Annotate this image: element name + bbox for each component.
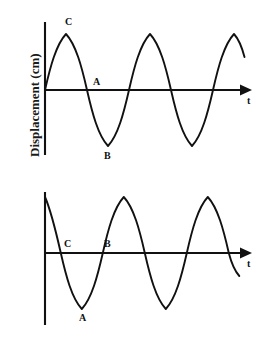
- displacement-chart-panel: Displacement (cm) C A B t: [0, 0, 262, 170]
- velocity-chart-panel: Velocity (cm/s) C B A t: [0, 170, 262, 340]
- displacement-plot-svg: [0, 0, 262, 170]
- velocity-x-axis-label: t: [247, 259, 250, 269]
- velocity-label-C: C: [64, 239, 71, 249]
- velocity-label-B: B: [104, 239, 111, 249]
- velocity-x-axis-arrowhead: [240, 248, 252, 259]
- velocity-plot-svg: [0, 170, 262, 340]
- displacement-x-axis-arrowhead: [240, 85, 252, 96]
- physics-waveform-figure: Displacement (cm) C A B t Velocity (cm/s…: [0, 0, 262, 340]
- displacement-label-B: B: [104, 151, 111, 161]
- displacement-label-A: A: [93, 77, 100, 87]
- displacement-label-C: C: [65, 17, 72, 27]
- displacement-x-axis-label: t: [247, 96, 250, 106]
- velocity-label-A: A: [79, 313, 86, 323]
